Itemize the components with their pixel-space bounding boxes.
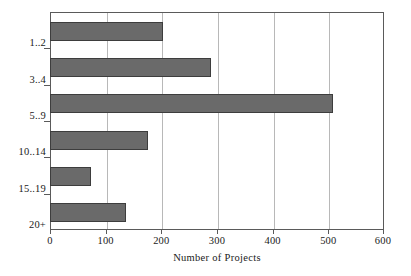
x-axis-tick [328, 230, 329, 234]
bar-1-2[interactable] [50, 22, 163, 41]
bar-row [51, 49, 383, 85]
bar-row [51, 195, 383, 231]
x-axis-title: Number of Projects [50, 252, 384, 263]
x-axis-tick-label: 500 [308, 235, 348, 247]
y-axis-tick-label: 5..9 [0, 110, 46, 121]
x-axis-tick-label: 100 [86, 235, 126, 247]
y-axis-tick-label: 1..2 [0, 37, 46, 48]
y-axis-tick-label: 15..19 [0, 183, 46, 194]
x-axis-tick [383, 230, 384, 234]
y-axis-tick-label: 10..14 [0, 146, 46, 157]
x-axis-tick-label: 0 [30, 235, 70, 247]
x-axis-tick-label: 200 [141, 235, 181, 247]
bar-5-9[interactable] [50, 94, 333, 113]
x-axis-tick [106, 230, 107, 234]
bar-3-4[interactable] [50, 58, 211, 77]
bar-20-plus[interactable] [50, 203, 126, 222]
x-axis-tick [161, 230, 162, 234]
y-axis-tick-label: 3..4 [0, 74, 46, 85]
x-axis-tick-label: 400 [253, 235, 293, 247]
bar-row [51, 158, 383, 194]
bar-10-14[interactable] [50, 131, 148, 150]
bar-row [51, 122, 383, 158]
plot-area [50, 12, 384, 230]
y-axis-labels: 1..2 3..4 5..9 10..14 15..19 20+ [0, 12, 46, 230]
bar-row [51, 86, 383, 122]
bar-row [51, 13, 383, 49]
x-axis: 0 100 200 300 400 500 600 [50, 230, 384, 270]
x-axis-tick-label: 600 [363, 235, 403, 247]
bar-15-19[interactable] [50, 167, 91, 186]
bar-chart: 1..2 3..4 5..9 10..14 15..19 20+ [0, 0, 411, 276]
y-axis-tick-label: 20+ [0, 219, 46, 230]
x-axis-tick [217, 230, 218, 234]
x-axis-tick [273, 230, 274, 234]
x-axis-tick [50, 230, 51, 234]
x-axis-tick-label: 300 [197, 235, 237, 247]
